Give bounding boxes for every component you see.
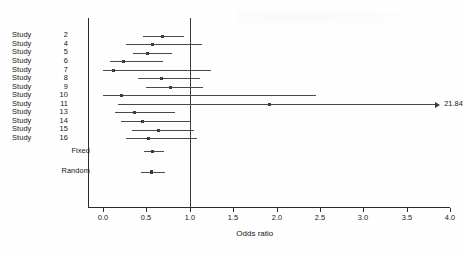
y-axis-line	[88, 18, 89, 207]
x-axis-tick	[407, 208, 408, 212]
confidence-interval-line	[121, 121, 190, 122]
x-axis-tick-label: 1.0	[175, 213, 205, 222]
study-effect-marker	[161, 35, 164, 38]
confidence-interval-line	[132, 130, 194, 131]
study-label-word: Study	[12, 91, 52, 99]
forest-plot: Study2Study4Study5Study6Study7Study8Stud…	[0, 0, 464, 256]
summary-label-random: Random	[12, 167, 98, 175]
study-effect-marker	[169, 86, 172, 89]
study-effect-marker	[141, 120, 144, 123]
scan-artifact-smudge	[236, 6, 446, 28]
study-label-10: Study10	[12, 91, 98, 99]
study-effect-marker	[133, 111, 136, 114]
x-axis-tick	[190, 208, 191, 212]
x-axis-tick	[103, 208, 104, 212]
study-effect-marker	[160, 77, 163, 80]
confidence-interval-line	[118, 104, 436, 105]
study-label-word: Study	[12, 134, 52, 142]
x-axis-tick	[320, 208, 321, 212]
x-axis-line	[88, 207, 450, 208]
confidence-interval-line	[115, 112, 175, 113]
study-effect-marker	[268, 103, 271, 106]
reference-line-null-effect	[190, 18, 191, 207]
confidence-interval-line	[146, 87, 202, 88]
x-axis-tick-label: 4.0	[435, 213, 464, 222]
x-axis-tick	[233, 208, 234, 212]
study-label-word: Study	[12, 74, 52, 82]
study-effect-marker	[122, 60, 125, 63]
study-effect-marker	[157, 129, 160, 132]
study-effect-marker	[146, 52, 149, 55]
summary-effect-marker	[151, 150, 154, 153]
summary-label-fixed: Fixed	[12, 147, 98, 155]
confidence-interval-line	[126, 44, 201, 45]
study-effect-marker	[147, 137, 150, 140]
study-label-word: Study	[12, 57, 52, 65]
summary-effect-marker	[150, 170, 153, 173]
x-axis-tick	[146, 208, 147, 212]
study-effect-marker	[120, 94, 123, 97]
x-axis-tick-label: 2.0	[262, 213, 292, 222]
x-axis-tick-label: 2.5	[305, 213, 335, 222]
x-axis-tick-label: 3.5	[392, 213, 422, 222]
x-axis-tick	[450, 208, 451, 212]
confidence-interval-line	[110, 61, 163, 62]
x-axis-tick	[277, 208, 278, 212]
x-axis-tick-label: 1.5	[218, 213, 248, 222]
study-label-number: 6	[52, 57, 68, 65]
x-axis-title: Odds ratio	[195, 229, 315, 239]
study-label-6: Study6	[12, 57, 98, 65]
study-effect-marker	[151, 43, 154, 46]
x-axis-tick-label: 0.0	[88, 213, 118, 222]
study-label-number: 16	[52, 134, 68, 142]
study-label-number: 8	[52, 74, 68, 82]
confidence-interval-line	[133, 53, 171, 54]
confidence-interval-line	[103, 95, 316, 96]
study-label-8: Study8	[12, 74, 98, 82]
ci-truncation-arrow-icon	[435, 102, 440, 108]
study-label-number: 10	[52, 91, 68, 99]
x-axis-tick-label: 3.0	[348, 213, 378, 222]
study-label-16: Study16	[12, 134, 98, 142]
x-axis-tick	[363, 208, 364, 212]
ci-upper-bound-annotation: 21.84	[444, 100, 463, 108]
confidence-interval-line	[138, 78, 200, 79]
confidence-interval-line	[126, 138, 197, 139]
confidence-interval-line	[103, 70, 211, 71]
study-effect-marker	[112, 69, 115, 72]
x-axis-tick-label: 0.5	[131, 213, 161, 222]
study-label-column: Study2Study4Study5Study6Study7Study8Stud…	[12, 0, 98, 256]
